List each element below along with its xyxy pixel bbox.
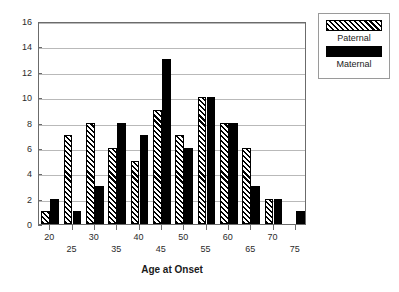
y-axis: 0246810121416	[10, 22, 36, 225]
bar-paternal	[198, 97, 206, 224]
x-tick-label: 20	[44, 233, 54, 242]
legend-swatch-paternal	[326, 20, 382, 31]
y-tick-label: 8	[27, 119, 32, 128]
bar-paternal	[131, 161, 139, 224]
x-tick-label: 75	[290, 245, 300, 254]
x-tick-label: 40	[133, 233, 143, 242]
x-tick-mark	[94, 225, 95, 230]
bar-paternal	[41, 211, 49, 224]
x-tick-mark	[295, 225, 296, 230]
plot-area	[38, 22, 306, 225]
bar-maternal	[162, 59, 170, 224]
legend-label-paternal: Paternal	[325, 32, 383, 44]
bar-maternal	[296, 211, 304, 224]
x-tick-mark	[228, 225, 229, 230]
y-tick-mark	[38, 200, 42, 201]
y-tick-mark	[38, 149, 42, 150]
legend-swatch-maternal	[326, 46, 382, 57]
y-tick-label: 4	[27, 170, 32, 179]
bar-paternal	[108, 148, 116, 224]
x-tick-mark	[139, 225, 140, 230]
y-tick-mark	[38, 124, 42, 125]
y-tick-mark	[38, 98, 42, 99]
y-tick-mark	[38, 174, 42, 175]
y-tick-label: 12	[22, 68, 32, 77]
y-tick-mark	[38, 47, 42, 48]
x-tick-mark	[250, 225, 251, 230]
y-tick-label: 10	[22, 94, 32, 103]
x-tick-mark	[72, 225, 73, 230]
bar-maternal	[207, 97, 215, 224]
x-axis-title: Age at Onset	[38, 264, 306, 275]
y-tick-label: 14	[22, 43, 32, 52]
x-tick-label: 45	[156, 245, 166, 254]
bar-maternal	[229, 123, 237, 225]
x-tick-mark	[183, 225, 184, 230]
bar-maternal	[117, 123, 125, 225]
x-tick-label: 55	[200, 245, 210, 254]
x-tick-mark	[116, 225, 117, 230]
bar-paternal	[153, 110, 161, 224]
bar-paternal	[86, 123, 94, 225]
x-tick-label: 30	[89, 233, 99, 242]
y-tick-mark	[38, 22, 42, 23]
y-tick-label: 0	[27, 221, 32, 230]
bar-maternal	[73, 211, 81, 224]
x-tick-label: 35	[111, 245, 121, 254]
x-axis: 202530354045505560657075	[38, 225, 306, 265]
y-tick-label: 2	[27, 195, 32, 204]
legend-label-maternal: Maternal	[325, 58, 383, 70]
bar-paternal	[242, 148, 250, 224]
x-tick-mark	[206, 225, 207, 230]
bar-paternal	[175, 135, 183, 224]
x-tick-mark	[273, 225, 274, 230]
x-tick-label: 25	[66, 245, 76, 254]
y-tick-mark	[38, 225, 42, 226]
x-tick-label: 60	[223, 233, 233, 242]
bar-maternal	[184, 148, 192, 224]
bar-maternal	[274, 199, 282, 224]
x-tick-label: 65	[245, 245, 255, 254]
x-tick-label: 70	[267, 233, 277, 242]
chart-figure: 0246810121416 202530354045505560657075 A…	[0, 0, 399, 292]
bar-paternal	[64, 135, 72, 224]
chart-legend: Paternal Maternal	[318, 13, 390, 79]
x-tick-mark	[49, 225, 50, 230]
x-tick-label: 50	[178, 233, 188, 242]
y-tick-label: 16	[22, 18, 32, 27]
bar-maternal	[251, 186, 259, 224]
bars-layer	[39, 23, 305, 224]
y-tick-label: 6	[27, 144, 32, 153]
bar-maternal	[95, 186, 103, 224]
bar-maternal	[140, 135, 148, 224]
bar-paternal	[220, 123, 228, 225]
bar-paternal	[265, 199, 273, 224]
y-tick-mark	[38, 73, 42, 74]
bar-maternal	[50, 199, 58, 224]
x-tick-mark	[161, 225, 162, 230]
